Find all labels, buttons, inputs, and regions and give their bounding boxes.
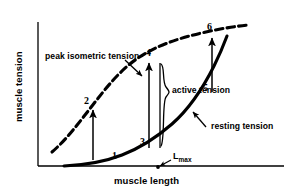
point-label-3: 3 (140, 137, 145, 147)
figure-canvas (0, 0, 288, 191)
point-label-4: 4 (146, 48, 151, 58)
annotation-peak-isometric-tension: peak isometric tension (45, 52, 139, 61)
lmax-label: Lmax (173, 152, 192, 163)
point-label-5: 5 (203, 83, 208, 93)
annotation-resting-tension: resting tension (211, 122, 273, 131)
leader-resting-tension (193, 112, 206, 127)
leader-lmax (156, 160, 171, 169)
y-axis-label: muscle tension (14, 51, 24, 122)
lmax-subscript: max (179, 156, 192, 163)
point-label-6: 6 (207, 22, 212, 32)
muscle-length-tension-figure: muscle tension muscle length peak isomet… (0, 0, 288, 191)
point-label-1: 1 (112, 151, 117, 161)
point-label-2: 2 (84, 96, 89, 106)
x-axis-label: muscle length (114, 176, 179, 186)
annotation-active-tension: active tension (172, 86, 230, 95)
